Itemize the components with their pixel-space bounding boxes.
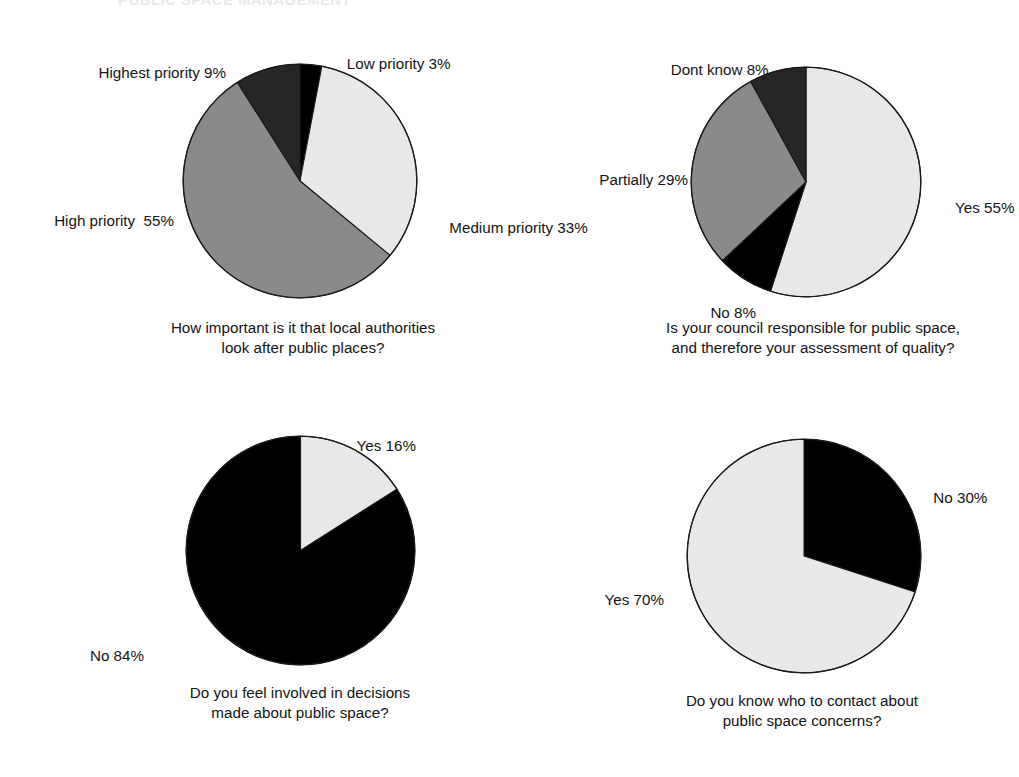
slice-label-contact-yes-text: Yes 70% xyxy=(605,591,664,608)
slice-label-highest-priority: Highest priority 9% xyxy=(26,45,226,102)
caption-council-responsible: Is your council responsible for public s… xyxy=(613,318,1013,358)
slice-label-high-priority-text: High priority 55% xyxy=(54,212,174,229)
chart-priority: Low priority 3% Medium priority 33% High… xyxy=(0,0,506,390)
slice-label-council-dont-know-text: Dont know 8% xyxy=(671,61,769,78)
slice-label-involved-yes: Yes 16% xyxy=(216,418,416,475)
slice-label-council-yes-text: Yes 55% xyxy=(955,199,1014,216)
slice-label-council-partially-text: Partially 29% xyxy=(599,171,688,188)
slice-label-low-priority-text: Low priority 3% xyxy=(347,55,451,72)
slice-label-highest-priority-text: Highest priority 9% xyxy=(99,64,226,81)
slice-label-contact-no: No 30% xyxy=(908,470,1019,527)
slice-label-contact-yes: Yes 70% xyxy=(464,572,664,629)
slice-label-council-dont-know: Dont know 8% xyxy=(607,42,807,99)
slice-label-high-priority: High priority 55% xyxy=(0,193,174,250)
pie-council-responsible-svg xyxy=(690,66,922,298)
chart-council-responsible: Yes 55% No 8% Partially 29% Dont know 8%… xyxy=(506,0,1012,390)
slice-label-low-priority: Low priority 3% xyxy=(296,36,476,93)
slice-label-council-yes: Yes 55% xyxy=(930,180,1019,237)
slice-label-involved-no: No 84% xyxy=(0,628,144,685)
pie-council-responsible xyxy=(690,66,922,298)
pie-who-to-contact xyxy=(686,438,922,674)
slice-label-council-partially: Partially 29% xyxy=(488,152,688,209)
caption-priority: How important is it that local authoriti… xyxy=(103,318,503,358)
chart-involved-decisions: Yes 16% No 84% Do you feel involved in d… xyxy=(0,390,506,777)
caption-who-to-contact: Do you know who to contact about public … xyxy=(602,691,1002,731)
slice-label-involved-no-text: No 84% xyxy=(90,647,144,664)
slice-label-involved-yes-text: Yes 16% xyxy=(357,437,416,454)
slice-label-contact-no-text: No 30% xyxy=(933,489,987,506)
caption-involved-decisions: Do you feel involved in decisions made a… xyxy=(100,683,500,723)
pie-who-to-contact-svg xyxy=(686,438,922,674)
chart-who-to-contact: No 30% Yes 70% Do you know who to contac… xyxy=(506,390,1012,777)
